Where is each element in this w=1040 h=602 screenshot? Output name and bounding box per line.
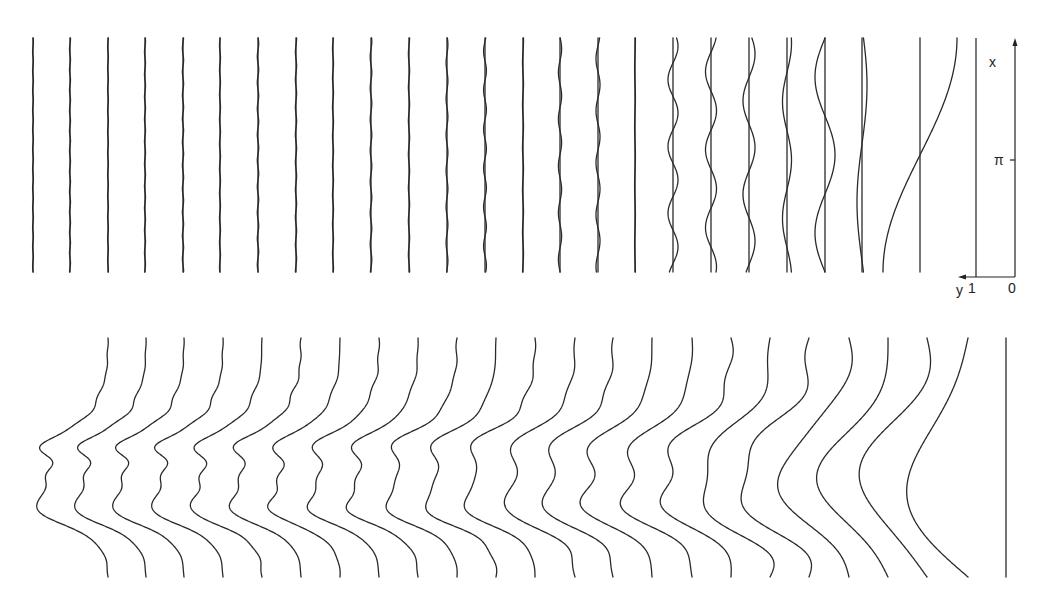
face-profile-partial-sum (37, 338, 109, 577)
harmonic-curve (108, 38, 109, 272)
figure-canvas: x π y 1 0 (0, 0, 1040, 602)
y-tick-1-label: 1 (968, 280, 976, 296)
partial-sums-panel (37, 338, 1006, 577)
face-profile-partial-sum (152, 338, 223, 577)
face-profile-partial-sum (907, 338, 968, 577)
face-profile-partial-sum (229, 338, 301, 577)
face-profile-partial-sum (660, 338, 733, 577)
face-profile-partial-sum (859, 338, 930, 577)
face-profile-partial-sum (346, 338, 418, 577)
face-profile-partial-sum (542, 338, 613, 577)
face-profile-partial-sum (75, 338, 146, 577)
face-profile-partial-sum (817, 338, 888, 577)
face-profile-partial-sum (464, 338, 535, 577)
fourier-face-profile-figure: x π y 1 0 (0, 0, 1040, 602)
harmonic-components-panel (33, 38, 957, 272)
face-profile-partial-sum (504, 338, 575, 577)
harmonic-curve (70, 38, 71, 272)
x-axis-label: x (989, 54, 996, 70)
face-profile-partial-sum (307, 338, 379, 577)
y-axis-label: y (956, 282, 963, 298)
axis-legend: x π y 1 0 (956, 38, 1018, 298)
face-profile-partial-sum (778, 338, 853, 577)
face-profile-partial-sum (268, 338, 340, 577)
pi-tick-label: π (994, 152, 1004, 168)
face-profile-partial-sum (190, 338, 262, 577)
face-profile-partial-sum (620, 338, 692, 577)
y-axis-arrow-icon (958, 275, 966, 280)
x-axis-arrow-icon (1013, 38, 1018, 46)
face-profile-partial-sum (426, 338, 497, 577)
y-tick-0-label: 0 (1008, 280, 1016, 296)
face-profile-partial-sum (386, 338, 457, 577)
harmonic-curve (295, 38, 296, 272)
face-profile-partial-sum (113, 338, 184, 577)
face-profile-partial-sum (580, 338, 652, 577)
